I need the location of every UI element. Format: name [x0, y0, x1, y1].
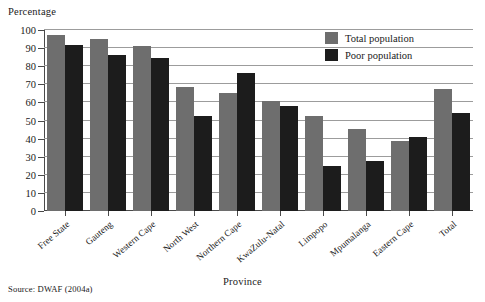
bar[interactable]	[391, 141, 409, 211]
x-tick-label-cell: Free State	[44, 211, 87, 273]
bar[interactable]	[151, 58, 169, 211]
bar-group[interactable]	[216, 30, 259, 211]
bar[interactable]	[65, 45, 83, 211]
bar[interactable]	[219, 93, 237, 211]
bar-group[interactable]	[430, 30, 473, 211]
y-tick-label: 90	[26, 43, 37, 54]
bar-group[interactable]	[259, 30, 302, 211]
legend-label: Total population	[345, 33, 414, 44]
y-axis-title: Percentage	[8, 6, 56, 17]
bar[interactable]	[176, 87, 194, 211]
bar[interactable]	[366, 161, 384, 211]
chart-legend: Total populationPoor population	[325, 32, 414, 61]
y-tick-label: 70	[26, 79, 37, 90]
bar[interactable]	[452, 113, 470, 211]
bar[interactable]	[280, 106, 298, 211]
legend-swatch	[325, 32, 338, 44]
bar-group[interactable]	[44, 30, 87, 211]
source-note: Source: DWAF (2004a)	[8, 284, 93, 294]
bar[interactable]	[108, 55, 126, 211]
bar[interactable]	[262, 101, 280, 211]
bar[interactable]	[305, 116, 323, 211]
bar[interactable]	[90, 39, 108, 211]
bar-group[interactable]	[173, 30, 216, 211]
x-tick-label: Limpopo	[297, 219, 330, 249]
bar[interactable]	[237, 73, 255, 211]
y-tick-label: 0	[31, 206, 36, 217]
y-tick-label: 20	[26, 169, 37, 180]
legend-item[interactable]: Poor population	[325, 49, 414, 61]
y-tick-label: 30	[26, 151, 37, 162]
legend-item[interactable]: Total population	[325, 32, 414, 44]
bar-group[interactable]	[130, 30, 173, 211]
x-tick-label-cell: Eastern Cape	[387, 211, 430, 273]
y-tick-label: 10	[26, 187, 37, 198]
x-tick-label-cell: Total	[430, 211, 473, 273]
legend-swatch	[325, 49, 338, 61]
bar-group[interactable]	[87, 30, 130, 211]
bar[interactable]	[434, 89, 452, 211]
bar[interactable]	[323, 166, 341, 211]
y-tick-label: 50	[26, 115, 37, 126]
y-tick-label: 60	[26, 97, 37, 108]
bar[interactable]	[348, 129, 366, 211]
bar[interactable]	[194, 116, 212, 211]
bar[interactable]	[47, 35, 65, 211]
x-tick-label: Total	[437, 219, 458, 239]
y-tick-label: 40	[26, 133, 37, 144]
x-tick-label: Gauteng	[84, 219, 115, 247]
legend-label: Poor population	[345, 50, 412, 61]
x-axis-tick-labels: Free StateGautengWestern CapeNorth WestN…	[44, 211, 473, 273]
y-tick-label: 80	[26, 61, 37, 72]
bar[interactable]	[409, 137, 427, 211]
x-tick-label: Free State	[36, 219, 72, 251]
y-tick-label: 100	[20, 25, 36, 36]
x-tick-label-cell: KwaZulu-Natal	[259, 211, 302, 273]
bar[interactable]	[133, 46, 151, 211]
